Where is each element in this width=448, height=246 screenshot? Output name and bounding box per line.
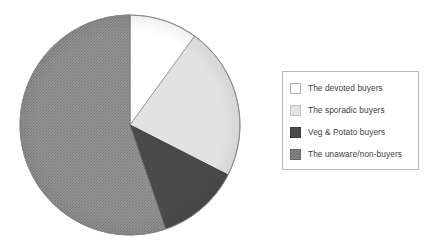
legend-label-devoted-buyers: The devoted buyers	[308, 83, 383, 94]
legend-label-unaware-non-buyers: The unaware/non-buyers	[308, 149, 402, 160]
legend-swatch-veg-potato-buyers	[290, 127, 301, 138]
legend-swatch-devoted-buyers	[290, 83, 301, 94]
pie-chart-graphic	[19, 14, 241, 236]
legend-item-sporadic-buyers[interactable]: The sporadic buyers	[290, 100, 413, 121]
pie-rim-shading	[20, 15, 240, 235]
chart-legend: The devoted buyers The sporadic buyers V…	[282, 71, 419, 170]
legend-swatch-unaware-non-buyers	[290, 149, 301, 160]
pie-chart-figure: The devoted buyers The sporadic buyers V…	[0, 0, 448, 246]
legend-item-devoted-buyers[interactable]: The devoted buyers	[290, 78, 413, 99]
legend-label-sporadic-buyers: The sporadic buyers	[308, 105, 385, 116]
pie-svg	[19, 14, 241, 236]
legend-swatch-texture-icon	[291, 150, 300, 159]
legend-item-unaware-non-buyers[interactable]: The unaware/non-buyers	[290, 144, 413, 165]
legend-label-veg-potato-buyers: Veg & Potato buyers	[308, 127, 385, 138]
legend-swatch-sporadic-buyers	[290, 105, 301, 116]
legend-item-veg-potato-buyers[interactable]: Veg & Potato buyers	[290, 122, 413, 143]
